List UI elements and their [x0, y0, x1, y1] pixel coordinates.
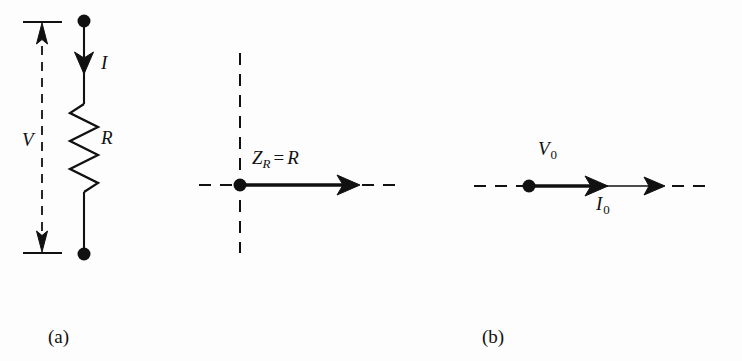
- impedance-symbol: Z: [252, 147, 263, 168]
- voltage-label: V: [22, 130, 34, 149]
- panel-b-graphics: [190, 0, 430, 361]
- panel-a-resistor-circuit: V I R (a): [0, 0, 190, 361]
- current-amplitude-subscript: 0: [603, 202, 610, 217]
- resistance-label: R: [101, 128, 113, 147]
- impedance-label: ZR=R: [252, 148, 299, 167]
- figure-container: V I R (a): [0, 0, 742, 361]
- voltage-amplitude-label: V0: [538, 139, 556, 158]
- current-amplitude-symbol: I: [596, 193, 602, 214]
- panel-a-graphics: [0, 0, 190, 361]
- current-label: I: [101, 53, 107, 72]
- resistor-zigzag: [70, 104, 98, 192]
- voltage-arrowhead-up: [37, 23, 48, 44]
- impedance-subscript: R: [263, 156, 271, 171]
- panel-c-voltage-current-phasor: V0 I0 (c): [430, 0, 742, 361]
- voltage-amplitude-symbol: V: [538, 138, 550, 159]
- current-amplitude-label: I0: [596, 194, 609, 213]
- voltage-amplitude-subscript: 0: [551, 147, 558, 162]
- impedance-operator: =: [271, 147, 288, 168]
- panel-b-impedance-phasor: ZR=R (b): [190, 0, 430, 361]
- impedance-value: R: [287, 147, 299, 168]
- voltage-arrowhead-down: [37, 231, 48, 252]
- caption-panel-a: (a): [48, 326, 69, 348]
- panel-c-graphics: [430, 0, 742, 361]
